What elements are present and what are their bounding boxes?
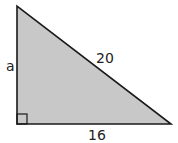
label-horizontal-leg: 16	[88, 127, 106, 143]
label-hypotenuse: 20	[96, 50, 114, 66]
label-vertical-leg: a	[6, 58, 15, 74]
right-triangle	[17, 6, 171, 124]
triangle-diagram: a 20 16	[0, 0, 178, 143]
